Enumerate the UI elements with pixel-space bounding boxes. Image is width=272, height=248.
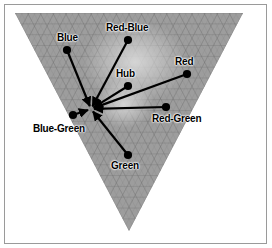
mesh-line-a [0,13,3,231]
mesh-line-a [242,13,271,231]
node-label-blue-green: Blue-Green [33,124,85,134]
mesh-line-a2 [0,13,35,231]
mesh-line-a2 [229,13,271,231]
node-dot-red-green[interactable] [162,103,170,111]
mesh-line-b2 [0,13,29,231]
figure-container: BlueRed-BlueRedHubRed-GreenBlue-GreenGre… [0,0,271,248]
mesh-line-a [0,13,28,231]
mesh-line-a2 [261,13,271,231]
mesh-line-a2 [248,13,271,231]
mesh-line-b [0,13,16,231]
mesh-line-b2 [242,13,271,231]
mesh-line-a2 [0,13,22,231]
mesh-line-b2 [268,13,271,231]
mesh-line-b [230,13,271,231]
mesh-line-b [255,13,271,231]
mesh-line-a2 [0,13,3,231]
mesh-line-b2 [0,13,23,231]
mesh-line-a2 [267,13,271,231]
mesh-line-b2 [224,13,272,231]
mesh-line-b2 [0,13,10,231]
mesh-line-a [0,13,16,231]
mesh-line-a2 [254,13,271,231]
mesh-line-b2 [236,13,271,231]
node-label-green: Green [111,161,139,171]
mesh-line-b2 [261,13,271,231]
node-label-red-green: Red-Green [152,114,201,124]
node-dot-red-blue[interactable] [124,36,132,44]
mesh-line-a [267,13,271,231]
node-label-red: Red [175,57,193,67]
mesh-line-b2 [0,13,35,231]
node-dot-blue[interactable] [63,46,71,54]
mesh-line-b2 [230,13,271,231]
mesh-line-b [242,13,271,231]
mesh-line-b [0,13,29,231]
mesh-line-a [254,13,271,231]
mesh-line-a2 [236,13,272,231]
mesh-line-a2 [0,13,28,231]
node-label-red-blue: Red-Blue [106,23,148,33]
mesh-line-a2 [223,13,271,231]
mesh-line-b [268,13,271,231]
mesh-line-a2 [0,13,9,231]
mesh-line-a2 [242,13,271,231]
node-label-hub: Hub [116,69,135,79]
node-dot-red[interactable] [183,70,191,78]
mesh-line-b2 [0,13,4,231]
node-dot-blue-green[interactable] [69,111,77,119]
mesh-line-b2 [255,13,271,231]
node-dot-hub[interactable] [124,82,132,90]
mesh-line-b2 [249,13,271,231]
mesh-line-b [0,13,4,231]
mesh-line-b2 [0,13,16,231]
node-dot-green[interactable] [124,151,132,159]
mesh-line-a2 [0,13,16,231]
node-label-blue: Blue [57,33,78,43]
mesh-line-a [229,13,271,231]
